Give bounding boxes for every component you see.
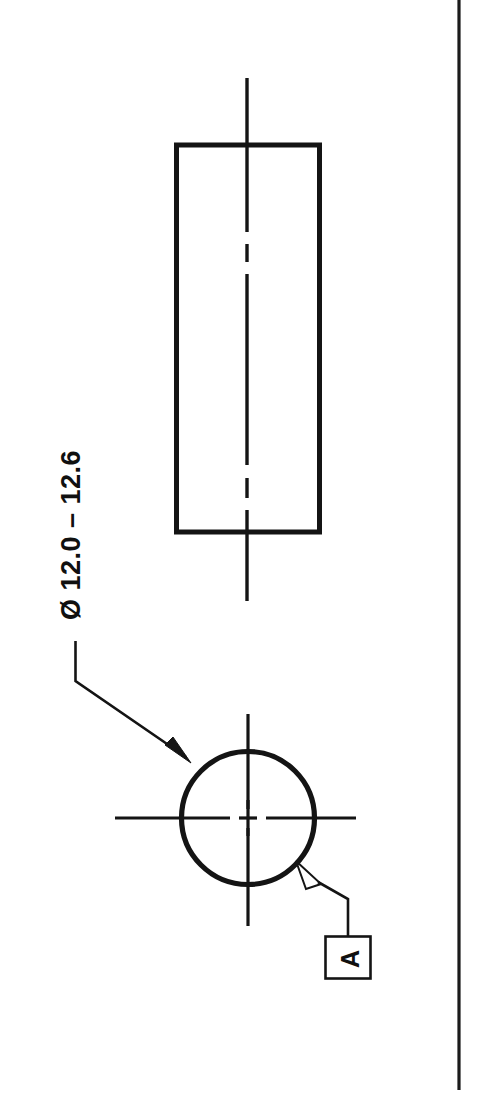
datum-label: A xyxy=(336,950,364,968)
drawing-sheet: Ø 12.0 – 12.6 xyxy=(0,0,500,1108)
diameter-dimension-label: Ø 12.0 – 12.6 xyxy=(56,450,86,620)
technical-drawing-canvas: Ø 12.0 – 12.6 xyxy=(0,0,500,1108)
